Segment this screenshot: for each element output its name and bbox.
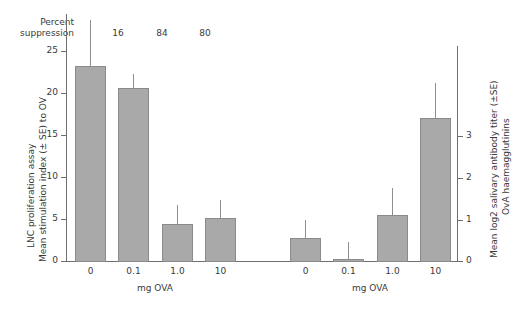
chart-figure: Percent suppression 16 84 80 25 20 15 10… xyxy=(0,0,526,312)
left-y-tick-label-25: 25 xyxy=(42,45,58,55)
percent-suppression-value-1: 16 xyxy=(103,28,133,38)
bar-right-1.0mg xyxy=(377,215,408,262)
right-y-axis-title-line2: OvA haemagglutinins xyxy=(501,118,511,215)
error-bar-right-2 xyxy=(348,242,349,260)
right-y-tick-0 xyxy=(458,261,463,262)
right-y-tick-label-2: 2 xyxy=(466,172,480,182)
left-y-tick-20 xyxy=(61,93,66,94)
x-tick-label-right-1.0: 1.0 xyxy=(377,266,408,276)
right-y-tick-label-0: 0 xyxy=(466,255,480,265)
right-y-axis xyxy=(457,46,458,262)
bar-right-0.1mg xyxy=(333,259,364,262)
right-y-tick-label-1: 1 xyxy=(466,214,480,224)
x-tick-label-left-1.0: 1.0 xyxy=(162,266,193,276)
left-y-tick-15 xyxy=(61,135,66,136)
x-tick-label-left-0: 0 xyxy=(75,266,106,276)
percent-suppression-header-line2: suppression xyxy=(2,28,74,39)
left-y-axis-title-line2: Mean stimulation index (± SE) to OV xyxy=(38,97,48,262)
bar-left-0.1mg xyxy=(118,88,149,262)
error-bar-right-3 xyxy=(392,188,393,215)
x-tick-label-right-0: 0 xyxy=(290,266,321,276)
left-y-axis-title-line1: LNC proliferation assay xyxy=(26,144,36,248)
left-y-tick-25 xyxy=(61,51,66,52)
right-y-tick-1 xyxy=(458,220,463,221)
x-tick-label-left-10: 10 xyxy=(205,266,236,276)
error-bar-left-4 xyxy=(220,200,221,218)
error-bar-left-2 xyxy=(133,74,134,88)
bar-left-10mg xyxy=(205,218,236,262)
x-tick-label-right-10: 10 xyxy=(420,266,451,276)
left-y-tick-label-20: 20 xyxy=(42,87,58,97)
percent-suppression-value-2: 84 xyxy=(147,28,177,38)
x-axis-title-left: mg OVA xyxy=(120,283,190,293)
error-bar-right-1 xyxy=(305,220,306,238)
bar-right-0mg xyxy=(290,238,321,262)
bar-right-10mg xyxy=(420,118,451,262)
x-tick-label-right-0.1: 0.1 xyxy=(333,266,364,276)
left-y-tick-10 xyxy=(61,177,66,178)
x-tick-label-left-0.1: 0.1 xyxy=(118,266,149,276)
right-y-axis-title-line1: Mean log2 salivary antibody titer (±SE) xyxy=(489,80,499,258)
bar-left-0mg xyxy=(75,66,106,262)
x-axis-title-right: mg OVA xyxy=(335,283,405,293)
right-y-tick-label-3: 3 xyxy=(466,130,480,140)
left-y-tick-5 xyxy=(61,219,66,220)
error-bar-left-3 xyxy=(177,205,178,224)
left-y-axis xyxy=(66,14,67,262)
percent-suppression-value-3: 80 xyxy=(190,28,220,38)
bar-left-1.0mg xyxy=(162,224,193,262)
right-y-tick-2 xyxy=(458,178,463,179)
error-bar-right-4 xyxy=(435,83,436,118)
right-y-tick-3 xyxy=(458,136,463,137)
percent-suppression-header-line1: Percent xyxy=(12,17,74,28)
error-bar-left-1 xyxy=(90,20,91,66)
